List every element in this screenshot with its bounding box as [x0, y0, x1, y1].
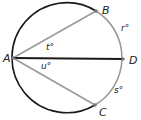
diameter-ad [13, 58, 123, 59]
point-a [11, 56, 15, 60]
angle-label-t: t° [46, 42, 54, 52]
label-b: B [102, 4, 110, 17]
point-d [121, 57, 125, 61]
point-b [94, 9, 98, 13]
diagram-canvas: A B D C t° u° r° s° [0, 0, 141, 120]
label-d: D [129, 54, 137, 67]
angle-label-u: u° [41, 61, 51, 71]
circle-diagram: A B D C t° u° r° s° [0, 0, 141, 120]
chord-ab [13, 11, 96, 58]
point-c [93, 103, 97, 107]
arc-label-s: s° [114, 85, 123, 95]
chord-ac [13, 58, 95, 105]
arc-label-r: r° [121, 23, 129, 33]
label-a: A [2, 52, 11, 65]
label-c: C [99, 106, 107, 119]
